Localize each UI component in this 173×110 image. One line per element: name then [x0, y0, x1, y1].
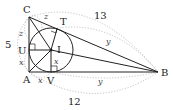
label-a: A: [22, 74, 31, 85]
arc-z-left: [25, 17, 30, 39]
label-b: B: [161, 67, 168, 78]
arc-y-bottom: [51, 72, 158, 78]
label-u: U: [18, 45, 26, 56]
var-x-bottom: x: [38, 76, 43, 85]
incenter-dot: [50, 49, 53, 52]
var-y-top: y: [105, 37, 111, 46]
var-z-top: z: [43, 12, 49, 21]
label-c: C: [23, 4, 31, 15]
var-y-bottom: y: [97, 77, 103, 86]
geometry-diagram: C A B I T U V 5 13 12 z z x x x y y: [0, 0, 173, 110]
var-z-left: z: [18, 29, 24, 38]
label-i: I: [57, 44, 61, 55]
arc-cb: [29, 12, 158, 72]
label-v: V: [46, 75, 55, 86]
triangle: [29, 17, 158, 72]
length-ab: 12: [68, 96, 81, 107]
var-x-left: x: [19, 58, 24, 67]
bisector-b: [51, 50, 158, 72]
length-cb: 13: [94, 10, 107, 21]
var-x-radius: x: [54, 57, 59, 66]
label-t: T: [60, 16, 67, 27]
triangle-abc: [29, 17, 158, 72]
length-ac: 5: [5, 39, 11, 50]
